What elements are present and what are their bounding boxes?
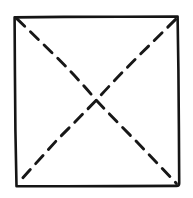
square-with-diagonals-drawing: [0, 0, 193, 198]
figure-canvas: [0, 0, 193, 198]
